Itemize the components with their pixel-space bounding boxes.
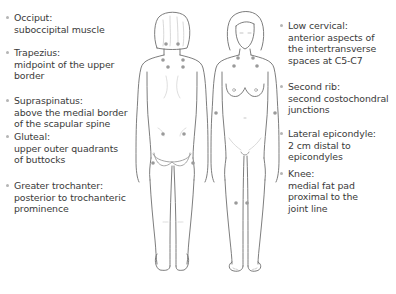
tender-point-low-cervical-left xyxy=(236,56,240,60)
tender-point-gluteal-left xyxy=(161,132,165,136)
tender-point-occiput-left xyxy=(164,42,168,46)
tender-point-knee-left xyxy=(234,201,238,205)
tender-point-supraspinatus-right xyxy=(181,65,185,69)
tender-points xyxy=(151,42,277,205)
front-body-figure xyxy=(211,12,279,272)
tender-point-trapezius-left xyxy=(161,58,165,62)
tender-point-gluteal-right xyxy=(182,132,186,136)
tender-point-trochanter-right xyxy=(191,161,195,165)
tender-point-epicondyle-right xyxy=(273,111,277,115)
tender-point-epicondyle-left xyxy=(214,111,218,115)
tender-point-supraspinatus-left xyxy=(166,65,170,69)
back-body-figure xyxy=(136,12,208,270)
tender-point-occiput-right xyxy=(176,42,180,46)
tender-point-trapezius-right xyxy=(181,58,185,62)
tender-point-second-rib-right xyxy=(255,64,259,68)
tender-point-knee-right xyxy=(245,201,249,205)
tender-point-second-rib-left xyxy=(232,64,236,68)
body-figures xyxy=(0,0,396,294)
tender-point-trochanter-left xyxy=(151,161,155,165)
tender-point-low-cervical-right xyxy=(251,56,255,60)
